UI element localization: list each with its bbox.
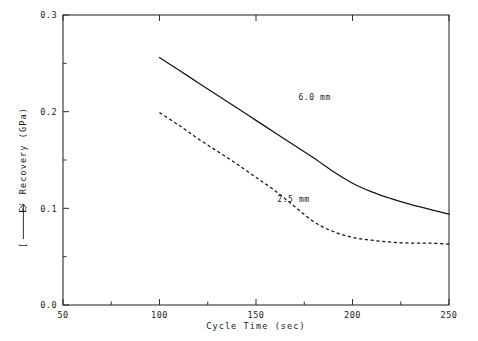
y-axis-title-group: E' Recovery (GPa) <box>18 107 28 213</box>
x-tick-label: 100 <box>151 310 168 320</box>
series-label-6-0-mm: 6.0 mm <box>298 93 331 102</box>
y-axis-title: E' Recovery (GPa) <box>18 107 28 213</box>
x-tick-label: 250 <box>441 310 458 320</box>
y-tick-label: 0.0 <box>40 300 57 310</box>
x-axis-title: Cycle Time (sec) <box>206 321 305 331</box>
series-label-2-5-mm: 2.5 mm <box>277 195 310 204</box>
dma-recovery-chart: 50100150200250 Cycle Time (sec) 0.00.10.… <box>0 0 478 341</box>
x-tick-label: 150 <box>248 310 265 320</box>
y-tick-label: 0.3 <box>40 10 57 20</box>
x-tick-label: 200 <box>344 310 361 320</box>
y-tick-label: 0.2 <box>40 107 57 117</box>
y-tick-label: 0.1 <box>40 204 57 214</box>
y-axis-bracket-glyph: [ <box>18 242 28 248</box>
x-tick-label: 50 <box>57 310 68 320</box>
chart-background <box>0 0 478 341</box>
